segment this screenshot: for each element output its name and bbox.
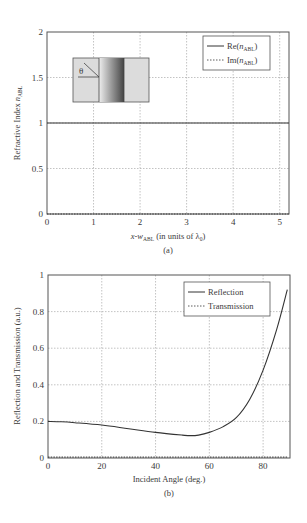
x-tick-label: 0 (46, 461, 51, 471)
x-tick-label: 80 (259, 461, 269, 471)
legend-reflection: Reflection (208, 287, 244, 297)
x-tick-label: 40 (151, 461, 161, 471)
xlabel-b: Incident Angle (deg.) (133, 474, 206, 484)
x-tick-label: 60 (205, 461, 215, 471)
chart-b: 02040608000.20.40.60.81 Reflection Trans… (0, 0, 307, 523)
legend-transmission: Transmission (208, 301, 254, 311)
x-tick-label: 20 (97, 461, 107, 471)
y-tick-label: 0.8 (33, 307, 45, 317)
y-tick-label: 0.2 (33, 416, 44, 426)
ylabel-b: Reflection and Transmission (a.u.) (12, 307, 22, 425)
y-tick-label: 1 (40, 270, 45, 280)
y-tick-label: 0 (40, 453, 45, 463)
legend-b: Reflection Transmission (184, 282, 270, 316)
y-tick-label: 0.6 (33, 343, 45, 353)
caption-b: (b) (164, 488, 174, 498)
y-tick-label: 0.4 (33, 380, 45, 390)
